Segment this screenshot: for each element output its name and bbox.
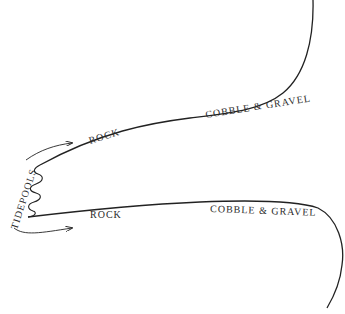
upper-cobble-label: COBBLE & GRAVEL [205, 92, 312, 120]
lower-cobble-label: COBBLE & GRAVEL [210, 203, 317, 218]
tidepools-label: TIDEPOOLS [8, 167, 38, 231]
lower-arrow [14, 228, 72, 233]
upper-shoreline [40, 0, 313, 165]
coastline-diagram: TIDEPOOLS ROCK COBBLE & GRAVEL ROCK COBB… [0, 0, 345, 314]
diagram-canvas: TIDEPOOLS ROCK COBBLE & GRAVEL ROCK COBB… [0, 0, 345, 314]
lower-rock-label: ROCK [90, 209, 122, 220]
upper-rock-label: ROCK [87, 126, 121, 146]
upper-arrow [26, 143, 72, 160]
